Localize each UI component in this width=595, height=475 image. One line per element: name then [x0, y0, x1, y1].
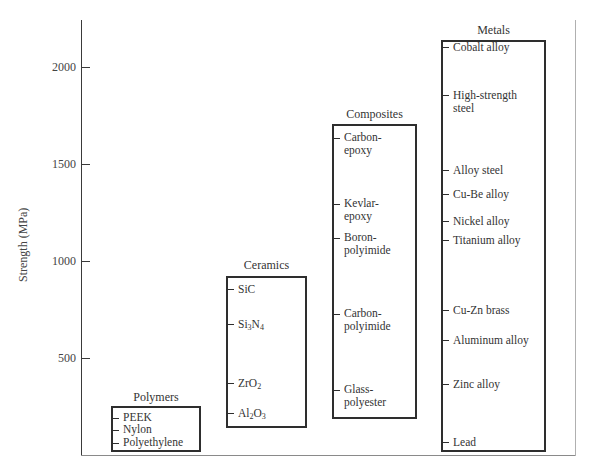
material-label-nylon: Nylon	[123, 423, 152, 436]
material-label-boron-polyimide: Boron-polyimide	[344, 231, 391, 257]
group-title-ceramics: Ceramics	[226, 258, 307, 273]
y-tick-1500	[82, 164, 90, 165]
right-frame-line	[575, 20, 576, 456]
y-tick-label-1000: 1000	[36, 255, 76, 267]
material-tick	[227, 289, 234, 290]
material-label-si3n4: Si3N4	[238, 318, 264, 334]
material-label-carbon-polyimide: Carbon-polyimide	[344, 307, 391, 333]
material-tick	[442, 170, 449, 171]
material-tick	[112, 443, 119, 444]
material-tick	[442, 95, 449, 96]
material-tick	[442, 194, 449, 195]
group-title-metals: Metals	[441, 23, 546, 38]
material-tick	[227, 383, 234, 384]
material-tick	[227, 324, 234, 325]
material-label-al2o3: Al2O3	[238, 407, 266, 423]
group-box-ceramics	[226, 276, 307, 428]
material-label-nickel-alloy: Nickel alloy	[453, 215, 510, 228]
material-tick	[442, 310, 449, 311]
material-tick	[333, 314, 340, 315]
material-tick	[112, 430, 119, 431]
material-label-sic: SiC	[238, 283, 255, 296]
material-tick	[442, 47, 449, 48]
material-label-polyethylene: Polyethylene	[123, 436, 183, 449]
material-tick	[333, 238, 340, 239]
y-tick-label-2000: 2000	[36, 61, 76, 73]
material-label-high-strength-steel: High-strengthsteel	[453, 89, 517, 115]
y-axis-title: Strength (MPa)	[16, 208, 31, 282]
group-title-polymers: Polymers	[111, 390, 201, 405]
material-label-cobalt-alloy: Cobalt alloy	[453, 41, 510, 54]
material-label-carbon-epoxy: Carbon-epoxy	[344, 131, 382, 157]
material-label-cu-be-alloy: Cu-Be alloy	[453, 188, 509, 201]
strength-chart: 2000 1500 1000 500 Strength (MPa) Polyme…	[0, 0, 595, 475]
material-tick	[333, 204, 340, 205]
y-tick-label-1500: 1500	[36, 158, 76, 170]
group-box-composites	[332, 124, 417, 419]
material-label-zro2: ZrO2	[238, 377, 261, 393]
material-tick	[227, 413, 234, 414]
material-tick	[442, 442, 449, 443]
material-tick	[333, 390, 340, 391]
material-label-zinc-alloy: Zinc alloy	[453, 378, 500, 391]
material-label-aluminum-alloy: Aluminum alloy	[453, 334, 529, 347]
material-tick	[442, 240, 449, 241]
y-tick-label-500: 500	[36, 352, 76, 364]
material-tick	[442, 384, 449, 385]
group-title-composites: Composites	[332, 107, 417, 122]
material-label-alloy-steel: Alloy steel	[453, 164, 503, 177]
y-tick-500	[82, 358, 90, 359]
material-tick	[112, 418, 119, 419]
y-axis-line	[81, 20, 82, 456]
material-tick	[442, 221, 449, 222]
material-tick	[333, 138, 340, 139]
material-label-titanium-alloy: Titanium alloy	[453, 234, 521, 247]
x-axis-line	[81, 455, 576, 456]
y-tick-1000	[82, 261, 90, 262]
y-tick-2000	[82, 67, 90, 68]
material-label-lead: Lead	[453, 436, 476, 449]
material-label-glass-polyester: Glass-polyester	[344, 383, 386, 409]
material-label-kevlar-epoxy: Kevlar-epoxy	[344, 197, 379, 223]
material-tick	[442, 340, 449, 341]
material-label-cu-zn-brass: Cu-Zn brass	[453, 304, 510, 317]
